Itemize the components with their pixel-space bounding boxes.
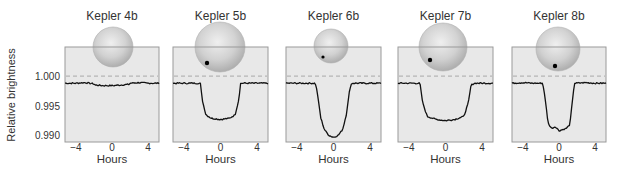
x-tick-label: −4 — [70, 142, 82, 153]
x-tick-label: 4 — [254, 142, 260, 153]
kepler-transit-figure: Relative brightness 1.0000.9950.990 Kepl… — [0, 0, 626, 172]
star-disk-icon — [314, 29, 348, 63]
panel-title: Kepler 6b — [308, 9, 360, 23]
y-tick-label: 0.990 — [35, 130, 60, 141]
x-tick-label: −4 — [291, 142, 303, 153]
x-tick-label: 0 — [443, 142, 449, 153]
panel-kepler-4b: Kepler 4b−404Hours — [65, 9, 159, 165]
x-tick-label: 4 — [367, 142, 373, 153]
y-tick-labels: 1.0000.9950.990 — [35, 71, 60, 141]
panel-title: Kepler 8b — [533, 9, 585, 23]
x-tick-label: 0 — [331, 142, 337, 153]
x-tick-label: 0 — [556, 142, 562, 153]
x-tick-label: 0 — [109, 142, 115, 153]
chart-svg: Relative brightness 1.0000.9950.990 Kepl… — [0, 0, 626, 172]
y-tick-label: 0.995 — [35, 101, 60, 112]
panels: Kepler 4b−404HoursKepler 5b−404HoursKepl… — [65, 9, 606, 165]
x-axis-label: Hours — [318, 153, 349, 165]
panel-kepler-6b: Kepler 6b−404Hours — [286, 9, 381, 165]
x-axis-label: Hours — [430, 153, 461, 165]
planet-dot-icon — [553, 64, 557, 68]
y-tick-label: 1.000 — [35, 71, 60, 82]
planet-dot-icon — [428, 58, 432, 62]
panel-title: Kepler 5b — [195, 9, 247, 23]
star-disk-icon — [536, 27, 580, 71]
x-axis-label: Hours — [205, 153, 236, 165]
panel-title: Kepler 7b — [420, 9, 472, 23]
panel-kepler-8b: Kepler 8b−404Hours — [512, 9, 606, 165]
x-tick-label: −4 — [517, 142, 529, 153]
x-tick-label: 4 — [479, 142, 485, 153]
planet-dot-icon — [205, 61, 209, 65]
x-tick-label: −4 — [178, 142, 190, 153]
x-axis-label: Hours — [97, 153, 128, 165]
x-axis-label: Hours — [544, 153, 575, 165]
x-tick-label: 4 — [592, 142, 598, 153]
x-tick-label: 4 — [145, 142, 151, 153]
panel-kepler-5b: Kepler 5b−404Hours — [173, 9, 268, 165]
panel-kepler-7b: Kepler 7b−404Hours — [398, 9, 493, 165]
x-tick-label: 0 — [218, 142, 224, 153]
planet-dot-icon — [321, 55, 324, 58]
x-tick-label: −4 — [403, 142, 415, 153]
panel-title: Kepler 4b — [86, 9, 138, 23]
y-axis-label: Relative brightness — [5, 48, 17, 142]
